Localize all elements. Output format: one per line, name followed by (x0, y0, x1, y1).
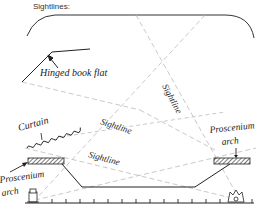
label-proscenium-right-2: arch (221, 135, 239, 147)
seat-left-icon (27, 189, 39, 202)
curtain (26, 128, 82, 150)
sightline-lines (22, 15, 256, 200)
label-curtain: Curtain (17, 114, 50, 133)
label-proscenium-left-1: Proscenium (0, 169, 45, 185)
label-hinged-book-flat: Hinged book flat (39, 67, 107, 78)
seat-right-icon (228, 190, 244, 202)
proscenium-arch-left (28, 158, 64, 164)
arrow-icon (234, 155, 238, 158)
arrow-icon (22, 162, 28, 167)
audience-ticks (52, 199, 252, 203)
back-wall-curve (27, 15, 254, 38)
curtain-pointer (41, 133, 42, 140)
label-proscenium-right-1: Proscenium (208, 120, 255, 135)
label-sightline-2: Sightline (87, 149, 120, 167)
stage-outline (62, 164, 230, 187)
proscenium-arch-right (214, 158, 250, 164)
sightlines-diagram: Hinged book flat Curtain Sightline Sight… (0, 0, 264, 213)
label-sightline-3: Sightline (160, 82, 184, 115)
label-sightline-1: Sightline (99, 116, 133, 135)
label-proscenium-left-2: arch (1, 186, 20, 198)
